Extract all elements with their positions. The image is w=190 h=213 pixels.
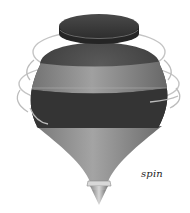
caption-spin: spin <box>141 168 163 179</box>
spinning-top-illustration <box>0 0 190 213</box>
top-body <box>20 30 180 130</box>
top-tip <box>87 181 111 205</box>
top-cap <box>59 14 139 44</box>
